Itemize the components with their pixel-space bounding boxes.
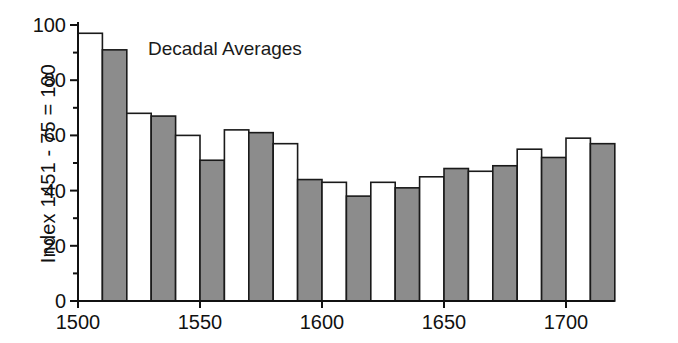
y-tick-label-0: 0 xyxy=(55,290,66,312)
y-tick-label-20: 20 xyxy=(44,235,66,257)
x-tick-label-1600: 1600 xyxy=(300,311,345,333)
bar-1540 xyxy=(176,135,200,301)
bar-1520 xyxy=(127,113,151,301)
y-tick-label-100: 100 xyxy=(33,14,66,36)
bar-1680 xyxy=(517,149,541,301)
bar-1700 xyxy=(566,138,590,301)
bar-1570 xyxy=(249,133,273,301)
plot-area: 020406080100 15001550160016501700 xyxy=(0,0,678,343)
bar-1670 xyxy=(493,166,517,301)
bar-1510 xyxy=(102,50,126,301)
x-tick-label-1700: 1700 xyxy=(544,311,589,333)
bar-1580 xyxy=(273,144,297,301)
bar-1620 xyxy=(371,182,395,301)
bar-1710 xyxy=(590,144,614,301)
bars-group xyxy=(78,33,615,301)
bar-chart: Index 1451 - 75 = 100 Decadal Averages 0… xyxy=(0,0,678,343)
bar-1560 xyxy=(224,130,248,301)
x-tick-label-1650: 1650 xyxy=(422,311,467,333)
bar-1650 xyxy=(444,169,468,301)
bar-1610 xyxy=(346,196,370,301)
bar-1600 xyxy=(322,182,346,301)
y-tick-label-60: 60 xyxy=(44,124,66,146)
x-tick-label-1500: 1500 xyxy=(56,311,101,333)
bar-1590 xyxy=(298,180,322,301)
y-tick-label-80: 80 xyxy=(44,69,66,91)
x-tick-label-1550: 1550 xyxy=(178,311,223,333)
y-tick-label-40: 40 xyxy=(44,180,66,202)
bar-1500 xyxy=(78,33,102,301)
y-axis-ticks: 020406080100 xyxy=(33,14,78,312)
x-axis-ticks: 15001550160016501700 xyxy=(56,301,589,333)
bar-1630 xyxy=(395,188,419,301)
bar-1660 xyxy=(468,171,492,301)
bar-1690 xyxy=(542,157,566,301)
bar-1640 xyxy=(420,177,444,301)
bar-1550 xyxy=(200,160,224,301)
bar-1530 xyxy=(151,116,175,301)
